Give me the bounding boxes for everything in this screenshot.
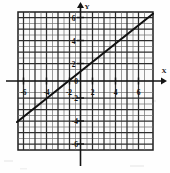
x-tick-label-2: 2 bbox=[91, 88, 95, 97]
y-tick-label-neg2: -2 bbox=[72, 94, 78, 103]
y-tick-label-neg6: -6 bbox=[72, 140, 78, 149]
x-tick-label-4: 4 bbox=[114, 88, 118, 97]
y-tick-label-6: 6 bbox=[72, 14, 76, 23]
x-tick-label-neg6: -6 bbox=[20, 88, 26, 97]
y-tick-label-neg4: -4 bbox=[72, 117, 78, 126]
figure-container: -6 -4 -2 2 4 6 6 4 2 0 -2 -4 -6 Y X bbox=[0, 0, 170, 173]
y-tick-label-4: 4 bbox=[72, 37, 76, 46]
x-tick-label-neg4: -4 bbox=[43, 88, 49, 97]
y-axis-name: Y bbox=[84, 3, 89, 11]
coordinate-plot: -6 -4 -2 2 4 6 6 4 2 0 -2 -4 -6 Y X bbox=[0, 0, 170, 173]
y-tick-label-0: 0 bbox=[74, 77, 78, 86]
x-axis-name: X bbox=[161, 67, 166, 75]
y-tick-label-2: 2 bbox=[72, 60, 76, 69]
x-tick-label-6: 6 bbox=[137, 88, 141, 97]
